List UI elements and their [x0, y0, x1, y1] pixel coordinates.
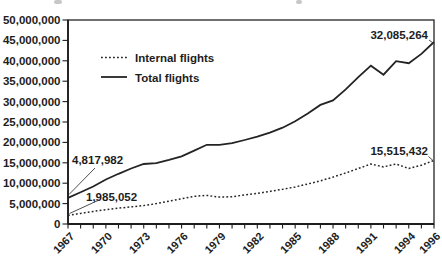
- annotation-total-1996: 32,085,264: [370, 29, 428, 41]
- x-axis-tick-label: 1967: [51, 230, 77, 256]
- x-axis-tick-label: 1988: [316, 230, 342, 256]
- x-axis-tick-label: 1976: [164, 230, 190, 256]
- y-axis-tick-label: 0: [54, 218, 60, 230]
- x-axis-tick-label: 1979: [202, 230, 228, 256]
- cropped-text-remnant: [296, 0, 302, 4]
- y-axis-tick-label: 45,000,000: [3, 34, 61, 46]
- annotation-internal-1996: 15,515,432: [370, 145, 428, 157]
- y-axis-tick-label: 15,000,000: [3, 157, 61, 169]
- legend-total-flights-label: Total flights: [135, 72, 199, 84]
- y-axis-tick-label: 40,000,000: [3, 55, 61, 67]
- x-axis-tick-label: 1985: [278, 230, 304, 256]
- y-axis-labels: 05,000,00010,000,00015,000,00020,000,000…: [3, 14, 61, 230]
- x-axis-tick-label: 1996: [417, 230, 442, 256]
- x-axis-tick-label: 1994: [391, 229, 417, 255]
- total-flights-line: [68, 42, 434, 198]
- annotation-internal-1996-leader: [429, 157, 434, 161]
- x-axis-tick-label: 1991: [354, 230, 380, 256]
- y-axis-tick-label: 5,000,000: [9, 198, 60, 210]
- y-axis-tick-label: 30,000,000: [3, 96, 61, 108]
- annotations: 4,817,982 1,985,052 32,085,264 15,515,43…: [69, 29, 435, 214]
- y-axis-tick-label: 35,000,000: [3, 75, 61, 87]
- y-axis-tick-label: 50,000,000: [3, 14, 61, 26]
- y-axis-tick-label: 20,000,000: [3, 136, 61, 148]
- legend-internal-flights-label: Internal flights: [135, 52, 214, 64]
- annotation-internal-1967-leader: [70, 200, 100, 214]
- x-axis-labels: 1967197019731976197919821985198819911994…: [51, 229, 442, 255]
- data-series: [68, 42, 434, 215]
- legend: Internal flights Total flights: [101, 52, 214, 84]
- flights-line-chart: 05,000,00010,000,00015,000,00020,000,000…: [0, 0, 442, 263]
- x-axis-tick-label: 1973: [126, 230, 152, 256]
- annotation-total-1967: 4,817,982: [72, 154, 123, 166]
- flights-chart-figure: 05,000,00010,000,00015,000,00020,000,000…: [0, 0, 442, 263]
- y-axis-tick-label: 25,000,000: [3, 116, 61, 128]
- x-axis-tick-label: 1982: [240, 230, 266, 256]
- y-axis-tick-label: 10,000,000: [3, 177, 61, 189]
- x-axis-tick-label: 1970: [88, 230, 114, 256]
- internal-flights-line: [68, 160, 434, 215]
- cropped-text-remnant: [54, 0, 62, 4]
- annotation-internal-1967: 1,985,052: [86, 191, 137, 203]
